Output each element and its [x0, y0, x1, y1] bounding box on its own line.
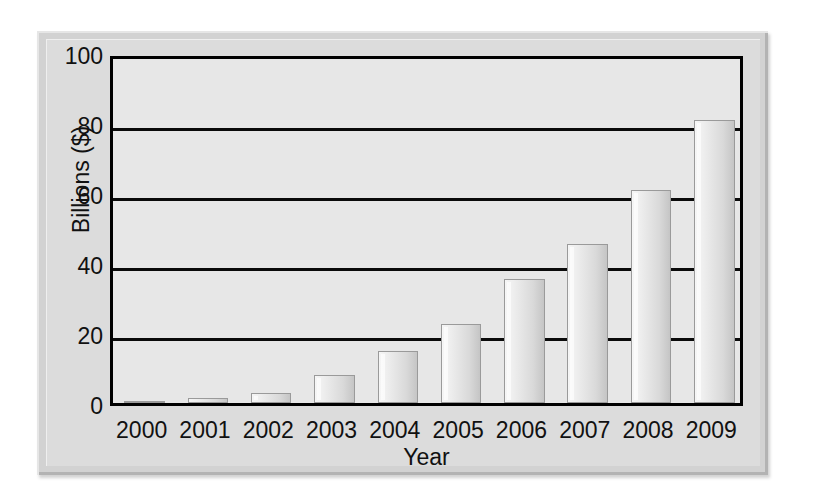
y-axis-tick-label: 0 — [90, 395, 103, 418]
x-axis-tick-label: 2005 — [427, 417, 490, 444]
bar — [251, 393, 292, 404]
chart-canvas: Billions ($) 020406080100 20002001200220… — [37, 31, 768, 475]
figure-plate: Billions ($) 020406080100 20002001200220… — [37, 31, 768, 475]
y-axis-tick-labels: 020406080100 — [47, 56, 103, 406]
x-axis-tick-label: 2008 — [616, 417, 679, 444]
y-axis-tick-label: 60 — [77, 185, 103, 208]
bar — [441, 324, 482, 403]
chart-figure: Billions ($) 020406080100 20002001200220… — [0, 0, 813, 502]
bar — [314, 375, 355, 403]
plot-area — [110, 56, 743, 406]
bar — [504, 279, 545, 403]
bar-series — [113, 59, 740, 403]
x-axis-tick-label: 2007 — [553, 417, 616, 444]
x-axis-tick-label: 2009 — [680, 417, 743, 444]
x-axis-tick-label: 2006 — [490, 417, 553, 444]
bar — [567, 244, 608, 403]
bar — [188, 398, 229, 403]
x-axis-tick-labels: 2000200120022003200420052006200720082009 — [110, 412, 743, 444]
bar — [694, 120, 735, 404]
x-axis-tick-label: 2002 — [237, 417, 300, 444]
bar — [124, 401, 165, 403]
y-axis-tick-label: 20 — [77, 325, 103, 348]
x-axis-tick-label: 2001 — [173, 417, 236, 444]
bar — [378, 351, 419, 404]
x-axis-tick-label: 2004 — [363, 417, 426, 444]
y-axis-tick-label: 40 — [77, 255, 103, 278]
y-axis-tick-label: 80 — [77, 115, 103, 138]
y-axis-tick-label: 100 — [65, 45, 103, 68]
bar — [631, 190, 672, 404]
x-axis-tick-label: 2003 — [300, 417, 363, 444]
x-axis-title: Year — [110, 444, 743, 471]
x-axis-tick-label: 2000 — [110, 417, 173, 444]
